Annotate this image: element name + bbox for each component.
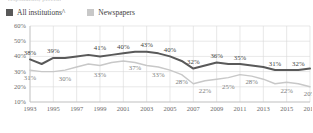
point-label: 36% (210, 53, 222, 60)
legend-item-newspapers[interactable]: Newspapers (87, 9, 135, 17)
plot-wrapper: 60%50%40%30%20%10% 199319951997199920012… (0, 26, 312, 118)
x-tick-1995: 1995 (47, 106, 60, 113)
point-label: 20% (304, 91, 312, 98)
x-tick-1997: 1997 (70, 106, 83, 113)
point-label: 40% (117, 43, 129, 50)
y-tick-20: 20% (14, 84, 26, 91)
y-axis-labels: 60%50%40%30%20%10% (0, 26, 28, 102)
point-label: 31% (24, 74, 36, 81)
x-tick-1993: 1993 (24, 106, 37, 113)
clipped-title: respondents, percent (8, 0, 61, 2)
point-label: 41% (94, 45, 106, 52)
x-tick-2005: 2005 (164, 106, 177, 113)
point-label: 33% (94, 71, 106, 78)
y-tick-50: 50% (14, 38, 26, 45)
x-tick-2009: 2009 (210, 106, 223, 113)
x-tick-2011: 2011 (234, 106, 247, 113)
x-tick-2013: 2013 (257, 106, 270, 113)
point-label: 22% (199, 88, 211, 95)
legend-swatch-newspapers (87, 9, 94, 16)
point-label: 35% (234, 54, 246, 61)
legend-label-newspapers: Newspapers (98, 9, 135, 17)
legend-swatch-all-institutions (6, 9, 13, 16)
x-tick-1999: 1999 (94, 106, 107, 113)
point-label: 39% (47, 48, 59, 55)
point-label: 40% (164, 46, 176, 53)
chart-figure: respondents, percent All institutions^ N… (0, 0, 312, 133)
point-label: 43% (140, 42, 152, 49)
point-label: 32% (292, 60, 304, 67)
y-tick-60: 60% (14, 23, 26, 30)
point-label: 30% (59, 76, 71, 83)
point-label: 37% (129, 65, 141, 72)
point-label: 25% (222, 83, 234, 90)
x-tick-2015: 2015 (280, 106, 293, 113)
x-tick-2001: 2001 (117, 106, 130, 113)
point-label: 33% (152, 71, 164, 78)
point-label: 28% (245, 79, 257, 86)
point-label: 38% (24, 50, 36, 57)
point-label: 22% (280, 88, 292, 95)
point-label: 32% (187, 59, 199, 66)
point-label: 31% (269, 60, 281, 67)
legend-label-all-institutions: All institutions^ (17, 9, 65, 17)
x-tick-2007: 2007 (187, 106, 200, 113)
x-axis-labels: 1993199519971999200120032005200720092011… (30, 106, 310, 118)
x-tick-2003: 2003 (140, 106, 153, 113)
point-label: 28% (175, 79, 187, 86)
legend-item-all-institutions[interactable]: All institutions^ (6, 9, 65, 17)
x-tick-2017: 2017 (304, 106, 313, 113)
chart-legend: All institutions^ Newspapers (6, 9, 135, 17)
